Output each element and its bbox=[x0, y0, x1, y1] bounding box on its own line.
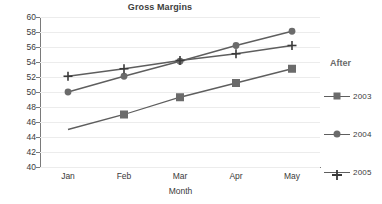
y-axis-tick-mark bbox=[36, 107, 40, 108]
x-axis-tick-label: Mar bbox=[157, 171, 203, 181]
legend-swatch-square-icon bbox=[324, 90, 350, 102]
y-axis-tick-label: 54 bbox=[2, 57, 36, 67]
data-point-marker-plus bbox=[120, 64, 129, 73]
x-axis-tick-label: Feb bbox=[101, 171, 147, 181]
y-axis-tick-label: 40 bbox=[2, 162, 36, 172]
legend-label: 2005 bbox=[350, 168, 372, 177]
data-point-marker-plus bbox=[64, 72, 73, 81]
y-axis-tick-label: 42 bbox=[2, 147, 36, 157]
legend-label: 2003 bbox=[350, 92, 372, 101]
x-axis-tick-label: Apr bbox=[213, 171, 259, 181]
legend-label: 2004 bbox=[350, 130, 372, 139]
y-axis-tick-mark bbox=[36, 47, 40, 48]
legend-marker-square-icon bbox=[334, 93, 341, 100]
legend-marker-circle-icon bbox=[334, 131, 341, 138]
data-point-marker-circle bbox=[289, 28, 296, 35]
y-axis-tick-mark bbox=[36, 92, 40, 93]
data-point-marker-plus bbox=[232, 49, 241, 58]
legend-entries: 200320042005 bbox=[324, 90, 382, 178]
chart-legend: After 200320042005 bbox=[324, 58, 382, 204]
data-point-marker-plus bbox=[288, 41, 297, 50]
series-lines-layer bbox=[40, 17, 320, 167]
y-axis-tick-label: 56 bbox=[2, 42, 36, 52]
y-axis-tick-mark bbox=[36, 62, 40, 63]
data-point-marker-circle bbox=[65, 89, 72, 96]
legend-entry-2004[interactable]: 2004 bbox=[324, 128, 382, 140]
gridline bbox=[40, 167, 320, 168]
x-axis-tick-label: May bbox=[269, 171, 315, 181]
y-axis-tick-mark bbox=[36, 32, 40, 33]
y-axis-tick-mark bbox=[36, 137, 40, 138]
x-axis-tick-label: Jan bbox=[45, 171, 91, 181]
legend-title: After bbox=[324, 58, 382, 68]
y-axis-tick-label: 58 bbox=[2, 27, 36, 37]
legend-entry-2005[interactable]: 2005 bbox=[324, 166, 382, 178]
y-axis-tick-mark bbox=[36, 77, 40, 78]
plot-area bbox=[40, 17, 320, 167]
data-point-marker-circle bbox=[233, 42, 240, 49]
legend-swatch-circle-icon bbox=[324, 128, 350, 140]
chart-container: Gross Margins 4042444648505254565860 Jan… bbox=[0, 0, 382, 204]
y-axis-tick-labels: 4042444648505254565860 bbox=[0, 0, 36, 204]
x-axis-title: Month bbox=[40, 186, 321, 196]
data-point-marker-square bbox=[232, 79, 240, 87]
y-axis-tick-label: 48 bbox=[2, 102, 36, 112]
data-point-marker-square bbox=[120, 111, 128, 119]
legend-entry-2003[interactable]: 2003 bbox=[324, 90, 382, 102]
y-axis-tick-mark bbox=[36, 122, 40, 123]
y-axis-tick-label: 60 bbox=[2, 12, 36, 22]
y-axis-tick-label: 52 bbox=[2, 72, 36, 82]
y-axis-tick-mark bbox=[36, 152, 40, 153]
legend-marker-plus-icon bbox=[332, 167, 343, 178]
y-axis-tick-label: 50 bbox=[2, 87, 36, 97]
y-axis-tick-label: 46 bbox=[2, 117, 36, 127]
data-point-marker-circle bbox=[121, 73, 128, 80]
data-point-marker-plus bbox=[176, 56, 185, 65]
chart-title: Gross Margins bbox=[0, 2, 320, 12]
legend-swatch-plus-icon bbox=[324, 166, 350, 178]
y-axis-tick-mark bbox=[36, 167, 40, 168]
data-point-marker-square bbox=[288, 65, 296, 73]
y-axis-tick-label: 44 bbox=[2, 132, 36, 142]
y-axis-tick-mark bbox=[36, 17, 40, 18]
data-point-marker-square bbox=[176, 93, 184, 101]
